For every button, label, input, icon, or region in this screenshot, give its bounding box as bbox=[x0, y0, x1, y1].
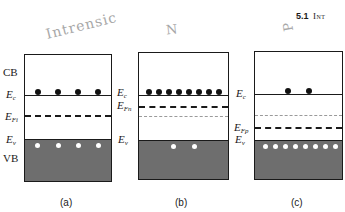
hole-icon bbox=[293, 144, 298, 149]
section-header: 5.1 Int bbox=[296, 11, 326, 21]
hole-icon bbox=[273, 144, 278, 149]
panel-a-band-diagram bbox=[24, 54, 112, 182]
panel-b-ev-label: Ev bbox=[118, 134, 128, 147]
electron-icon bbox=[186, 89, 192, 95]
annotation-n: N bbox=[165, 21, 179, 37]
electron-icon bbox=[75, 89, 81, 95]
electron-icon bbox=[156, 89, 162, 95]
panel-b-fermi-level bbox=[139, 106, 228, 108]
panel-c-ev-label: Ev bbox=[235, 134, 245, 147]
electron-icon bbox=[216, 89, 222, 95]
electron-icon bbox=[285, 88, 291, 94]
panel-a-ef-label: EFi bbox=[5, 111, 18, 124]
panel-b-band-diagram bbox=[138, 52, 229, 180]
electron-icon bbox=[206, 89, 212, 95]
panel-a-ev-label: Ev bbox=[6, 134, 16, 147]
hole-icon bbox=[263, 144, 268, 149]
annotation-p: P bbox=[280, 20, 296, 32]
panel-b-caption: (b) bbox=[175, 197, 187, 208]
electron-icon bbox=[55, 89, 61, 95]
panel-b-valence-band bbox=[139, 140, 228, 179]
panel-b-intrinsic-level bbox=[139, 116, 228, 117]
electron-icon bbox=[306, 88, 312, 94]
annotation-intrinsic: Intrensic bbox=[44, 9, 118, 42]
section-title-fragment: Int bbox=[313, 11, 326, 21]
panel-a-fermi-level bbox=[25, 115, 111, 117]
panel-c-intrinsic-level bbox=[255, 115, 342, 116]
hole-icon bbox=[171, 144, 176, 149]
valence-band-label: VB bbox=[3, 152, 18, 164]
hole-icon bbox=[192, 144, 197, 149]
panel-b-ef-label: EFn bbox=[117, 100, 132, 113]
electron-icon bbox=[176, 89, 182, 95]
hole-icon bbox=[56, 143, 61, 148]
hole-icon bbox=[313, 144, 318, 149]
panel-c-ec-label: Ec bbox=[236, 88, 246, 101]
hole-icon bbox=[303, 144, 308, 149]
hole-icon bbox=[333, 144, 338, 149]
panel-c-caption: (c) bbox=[291, 197, 303, 208]
electron-icon bbox=[166, 89, 172, 95]
panel-a-ec-label: Ec bbox=[6, 89, 16, 102]
hole-icon bbox=[283, 144, 288, 149]
panel-c-fermi-level bbox=[255, 127, 342, 129]
panel-c-valence-band bbox=[255, 140, 342, 179]
panel-c-conduction-band-edge bbox=[255, 94, 342, 95]
electron-icon bbox=[146, 89, 152, 95]
panel-a-conduction-band-edge bbox=[25, 95, 111, 96]
electron-icon bbox=[35, 89, 41, 95]
hole-icon bbox=[96, 143, 101, 148]
section-number: 5.1 bbox=[296, 11, 309, 21]
panel-a-valence-band bbox=[25, 139, 111, 181]
panel-c-band-diagram bbox=[254, 51, 343, 180]
hole-icon bbox=[35, 143, 40, 148]
hole-icon bbox=[76, 143, 81, 148]
conduction-band-label: CB bbox=[3, 66, 18, 78]
panel-a-caption: (a) bbox=[60, 197, 72, 208]
electron-icon bbox=[196, 89, 202, 95]
hole-icon bbox=[323, 144, 328, 149]
panel-b-conduction-band-edge bbox=[139, 95, 228, 96]
electron-icon bbox=[95, 89, 101, 95]
